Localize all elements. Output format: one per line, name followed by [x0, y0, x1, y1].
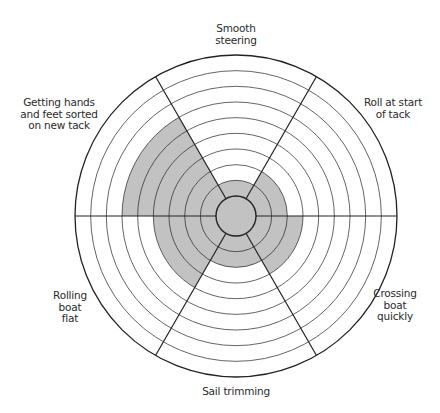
center-hub — [216, 196, 256, 236]
label-crossing-boat-quickly: Crossing boat quickly — [364, 288, 426, 323]
label-getting-hands-and-feet-sorted: Getting hands and feet sorted on new tac… — [12, 97, 106, 132]
divider-line — [246, 77, 317, 199]
label-smooth-steering: Smooth steering — [196, 23, 276, 46]
label-roll-at-start-of-tack: Roll at start of tack — [353, 97, 433, 120]
performance-wheel-chart — [0, 0, 440, 413]
label-rolling-boat-flat: Rolling boat flat — [40, 290, 100, 325]
label-sail-trimming: Sail trimming — [191, 386, 281, 398]
